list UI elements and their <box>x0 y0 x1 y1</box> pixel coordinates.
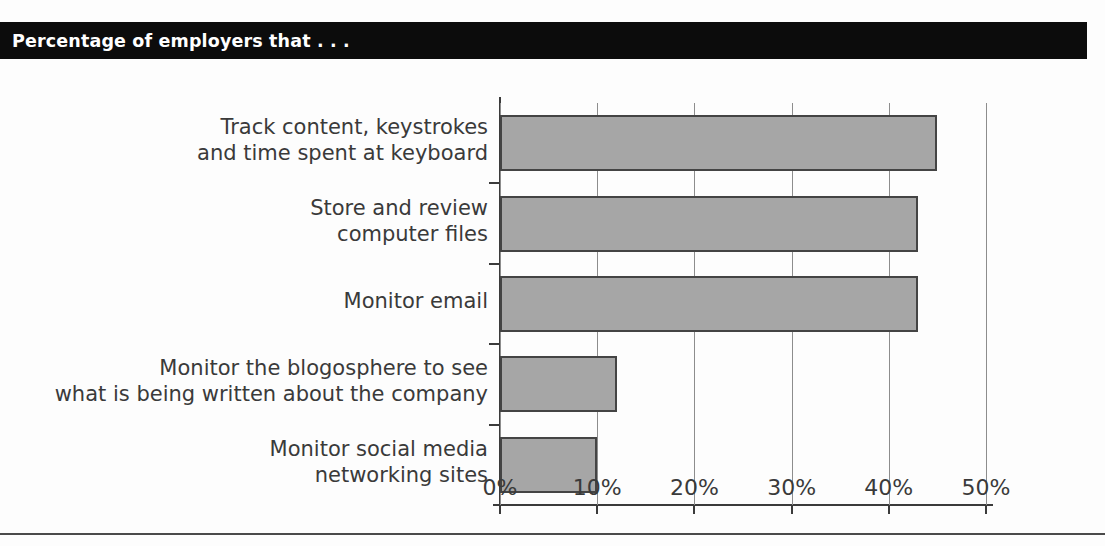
x-tick-20 <box>693 505 695 514</box>
y-tick-4 <box>489 424 500 426</box>
x-tick-0 <box>499 505 501 514</box>
bar-chart: Track content, keystrokes and time spent… <box>0 59 1105 533</box>
gridline-50 <box>986 103 987 505</box>
bar-2 <box>500 196 918 252</box>
x-axis-label: 20% <box>649 475 739 500</box>
x-axis-label: 0% <box>455 475 545 500</box>
footer-divider <box>0 533 1105 535</box>
x-axis-label: 10% <box>552 475 642 500</box>
y-tick-1 <box>489 182 500 184</box>
category-label-5: Monitor social media networking sites <box>8 436 488 488</box>
category-label-1: Track content, keystrokes and time spent… <box>8 114 488 166</box>
category-label-2: Store and review computer files <box>8 195 488 247</box>
x-tick-40 <box>888 505 890 514</box>
category-label-3: Monitor email <box>8 288 488 314</box>
x-tick-10 <box>596 505 598 514</box>
x-tick-30 <box>791 505 793 514</box>
y-tick-2 <box>489 263 500 265</box>
plot-area <box>500 103 986 505</box>
page-title: Percentage of employers that . . . <box>0 31 350 51</box>
bar-3 <box>500 276 918 332</box>
x-axis-label: 30% <box>747 475 837 500</box>
chart-page: Percentage of employers that . . . Track… <box>0 0 1105 546</box>
x-tick-50 <box>985 505 987 514</box>
category-label-4: Monitor the blogosphere to see what is b… <box>8 355 488 407</box>
y-tick-3 <box>489 343 500 345</box>
x-axis-label: 50% <box>941 475 1031 500</box>
bar-1 <box>500 115 937 171</box>
x-axis-label: 40% <box>844 475 934 500</box>
title-banner: Percentage of employers that . . . <box>0 22 1087 59</box>
bar-4 <box>500 356 617 412</box>
